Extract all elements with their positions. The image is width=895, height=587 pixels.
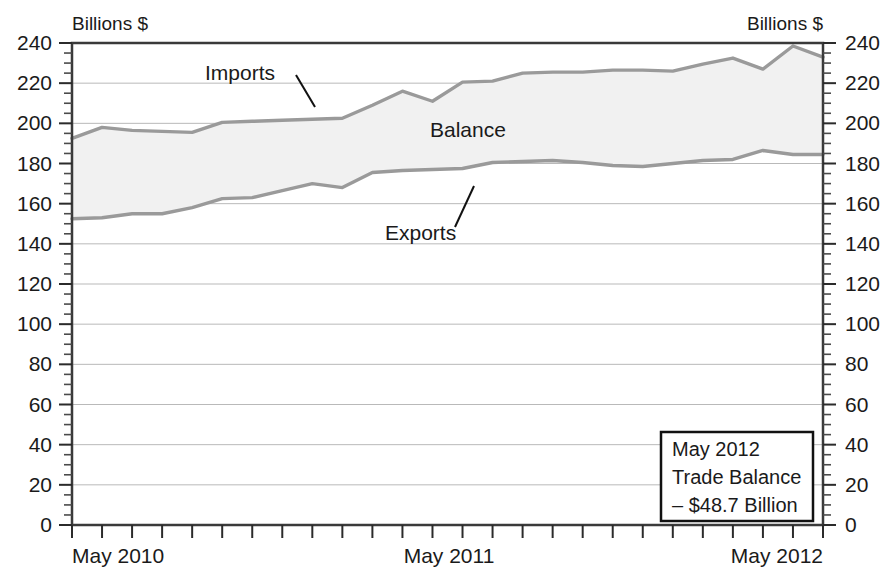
y-tick-label-right: 20 [845,473,868,496]
y-tick-label-left: 0 [40,513,52,536]
xtick-label-middle: May 2011 [404,544,495,567]
y-tick-label-left: 60 [29,393,52,416]
y-tick-label-right: 80 [845,352,868,375]
y-tick-label-right: 180 [845,152,880,175]
y-tick-label-left: 180 [17,152,52,175]
y-tick-label-right: 140 [845,232,880,255]
y-tick-label-left: 240 [17,31,52,54]
y-tick-label-left: 80 [29,352,52,375]
xtick-label-start: May 2010 [72,544,164,567]
y-tick-label-right: 160 [845,192,880,215]
y-tick-label-left: 200 [17,111,52,134]
unit-label-left: Billions $ [72,13,148,34]
x-axis-ticks [72,525,823,538]
y-tick-label-left: 100 [17,312,52,335]
y-tick-label-right: 100 [845,312,880,335]
y-axis-ticks-left [59,43,72,525]
unit-label-right: Billions $ [747,13,823,34]
y-tick-label-right: 200 [845,111,880,134]
y-tick-label-left: 140 [17,232,52,255]
y-tick-label-right: 220 [845,71,880,94]
y-axis-ticks-right [823,43,836,525]
y-tick-label-left: 220 [17,71,52,94]
balance-label: Balance [430,118,506,141]
y-tick-label-left: 20 [29,473,52,496]
y-tick-label-right: 60 [845,393,868,416]
y-tick-label-right: 240 [845,31,880,54]
y-tick-label-right: 40 [845,433,868,456]
y-axis-labels-left: 020406080100120140160180200220240 [17,31,52,536]
y-tick-label-right: 120 [845,272,880,295]
callout-line-3: – $48.7 Billion [672,494,798,516]
y-axis-labels-right: 020406080100120140160180200220240 [845,31,880,536]
y-tick-label-left: 40 [29,433,52,456]
callout-line-1: May 2012 [672,438,760,460]
callout-line-2: Trade Balance [672,466,801,488]
y-tick-label-right: 0 [845,513,857,536]
callout-annotation: May 2012 Trade Balance – $48.7 Billion [661,432,813,521]
y-tick-label-left: 160 [17,192,52,215]
xtick-label-end: May 2012 [731,544,823,567]
exports-label: Exports [385,221,456,244]
imports-label: Imports [205,61,275,84]
y-tick-label-left: 120 [17,272,52,295]
trade-balance-chart: 020406080100120140160180200220240 020406… [0,0,895,587]
chart-canvas: 020406080100120140160180200220240 020406… [0,0,895,587]
